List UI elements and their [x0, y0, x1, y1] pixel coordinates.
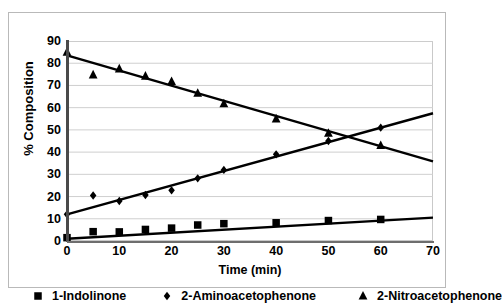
x-tick-label: 10: [99, 245, 139, 258]
diamond-marker-icon: [168, 186, 175, 194]
plot-area: [67, 41, 433, 241]
x-axis-label: Time (min): [67, 263, 433, 277]
triangle-marker-icon: [167, 76, 176, 85]
diamond-marker-icon: [194, 174, 201, 182]
square-marker-icon: [325, 217, 333, 225]
y-tick-label: 70: [27, 79, 61, 92]
diamond-marker-icon: [164, 292, 171, 300]
square-marker-icon: [272, 219, 280, 227]
y-axis-ticks: 0102030405060708090: [23, 13, 61, 307]
legend-item[interactable]: 2-Aminoacetophenone: [160, 289, 316, 303]
legend-label: 1-Indolinone: [52, 289, 126, 303]
chart-legend: 1-Indolinone2-Aminoacetophenone2-Nitroac…: [23, 287, 451, 305]
square-marker-icon: [89, 228, 97, 236]
y-axis-line: [66, 40, 69, 242]
square-marker-icon: [31, 289, 45, 303]
y-tick-label: 90: [27, 35, 61, 48]
series-2: [63, 47, 433, 161]
y-tick-label: 40: [27, 146, 61, 159]
series-1: [64, 113, 433, 218]
square-marker-icon: [377, 216, 385, 224]
square-marker-icon: [220, 220, 228, 228]
triangle-marker-icon: [89, 70, 98, 79]
x-tick-label: 20: [152, 245, 192, 258]
legend-item[interactable]: 1-Indolinone: [31, 289, 126, 303]
series-0: [63, 216, 433, 242]
y-tick-label: 80: [27, 57, 61, 70]
legend-item[interactable]: 2-Nitroacetophenone: [356, 289, 502, 303]
diamond-marker-icon: [160, 289, 174, 303]
triangle-marker-icon: [115, 64, 124, 73]
y-tick-label: 10: [27, 213, 61, 226]
y-tick-label: 50: [27, 124, 61, 137]
y-tick-label: 20: [27, 191, 61, 204]
figure-frame: % Composition 0102030405060708090 010203…: [8, 12, 446, 288]
y-tick-label: 30: [27, 168, 61, 181]
triangle-marker-icon: [141, 71, 150, 80]
x-tick-label: 30: [204, 245, 244, 258]
square-marker-icon: [116, 228, 124, 236]
diamond-marker-icon: [377, 123, 384, 131]
x-axis-line: [67, 241, 434, 243]
diamond-marker-icon: [90, 191, 97, 199]
x-tick-label: 60: [361, 245, 401, 258]
legend-label: 2-Aminoacetophenone: [181, 289, 316, 303]
legend-label: 2-Nitroacetophenone: [377, 289, 502, 303]
x-tick-label: 50: [308, 245, 348, 258]
square-marker-icon: [194, 221, 202, 229]
x-tick-label: 70: [413, 245, 453, 258]
square-marker-icon: [142, 226, 150, 234]
x-tick-label: 40: [256, 245, 296, 258]
data-layer: [67, 41, 433, 241]
x-tick-label: 0: [47, 245, 87, 258]
y-tick-label: 60: [27, 102, 61, 115]
triangle-marker-icon: [356, 289, 370, 303]
square-marker-icon: [34, 292, 42, 300]
square-marker-icon: [168, 224, 176, 232]
triangle-marker-icon: [359, 291, 368, 300]
